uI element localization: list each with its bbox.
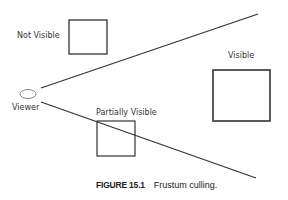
figure-caption: FIGURE 15.1Frustum culling.	[96, 180, 217, 190]
not-visible-label: Not Visible	[17, 31, 60, 40]
frustum-upper-edge	[41, 14, 258, 88]
figure-number: FIGURE 15.1	[96, 180, 145, 190]
partially-visible-box	[97, 121, 135, 156]
not-visible-box	[69, 20, 107, 54]
partially-visible-label: Partially Visible	[96, 108, 157, 117]
caption-text: Frustum culling.	[154, 180, 218, 190]
visible-box	[213, 70, 270, 121]
viewer-label: Viewer	[12, 103, 39, 112]
frustum-diagram	[0, 0, 288, 200]
visible-label: Visible	[228, 51, 254, 60]
viewer-eye-icon	[20, 90, 36, 99]
